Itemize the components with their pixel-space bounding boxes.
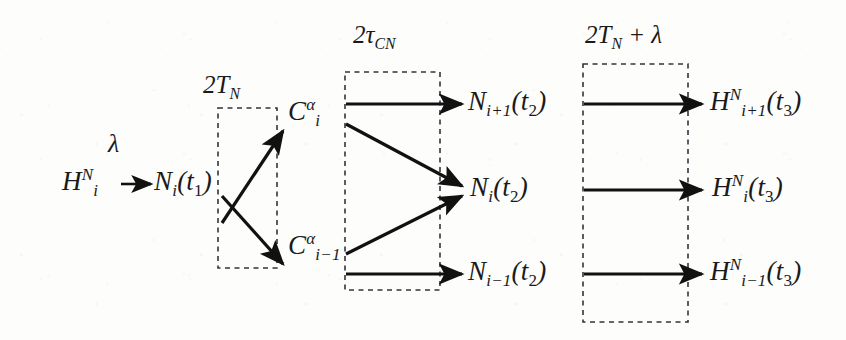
dashed-box-stage-2 <box>345 72 440 290</box>
node-n-t1-tail-sub: 1 <box>194 181 203 200</box>
node-source-h: HNi <box>62 168 98 195</box>
stage-label-1-sub: N <box>229 85 240 102</box>
reaction-pathway-diagram: 2TN 2τCN 2TN + λ λ HNi Ni(t1) Cαi Cαi−1 … <box>0 0 846 340</box>
node-h-lower-t3-base: H <box>710 256 730 286</box>
node-h-upper-t3-sup: N <box>730 85 742 104</box>
node-n-mid-t2-base: N <box>470 172 488 202</box>
node-n-mid-t2-tail: (t <box>493 172 510 202</box>
node-n-upper-t2-base: N <box>468 86 486 116</box>
stage-label-3-suffix: + λ <box>622 21 662 48</box>
node-n-t1: Ni(t1) <box>154 168 212 195</box>
node-source-h-base: H <box>62 166 82 196</box>
node-h-upper-t3-sub: i+1 <box>741 101 766 120</box>
node-h-upper-t3-tail-end: ) <box>792 86 801 116</box>
arrow-c-lower-to-n-mid <box>346 196 462 254</box>
node-c-lower-sub: i−1 <box>315 245 340 264</box>
node-h-lower-t3-sub: i−1 <box>741 271 766 290</box>
node-h-mid-t3-sup: N <box>732 171 744 190</box>
node-h-lower-t3-tail-sub: 3 <box>783 271 792 290</box>
node-n-lower-t2-sub: i−1 <box>486 271 511 290</box>
node-n-lower-t2-tail: (t <box>512 256 529 286</box>
node-n-lower-t2: Ni−1(t2) <box>468 258 546 285</box>
node-n-mid-t2: Ni(t2) <box>470 174 528 201</box>
stage-label-1: 2TN <box>203 72 240 97</box>
node-h-mid-t3-base: H <box>712 172 732 202</box>
stage-label-2-sub: CN <box>374 35 395 52</box>
node-n-upper-t2: Ni+1(t2) <box>468 88 546 115</box>
stage-label-3-sub: N <box>611 35 622 52</box>
stage-label-2: 2τCN <box>353 22 395 47</box>
dashed-box-stage-3 <box>583 64 688 322</box>
node-h-mid-t3: HNi(t3) <box>712 174 783 201</box>
node-c-lower-sup: α <box>306 229 315 248</box>
arrow-n-t1-to-c-upper <box>222 131 283 223</box>
node-h-upper-t3-tail-sub: 3 <box>783 101 792 120</box>
node-h-mid-t3-tail: (t <box>748 172 765 202</box>
stage-label-3-text: 2T <box>585 21 611 48</box>
node-h-upper-t3-base: H <box>710 86 730 116</box>
paper-texture-overlay <box>0 0 846 340</box>
rate-label-lambda: λ <box>108 131 119 157</box>
node-n-upper-t2-tail-sub: 2 <box>528 101 537 120</box>
stage-label-3: 2TN + λ <box>585 22 662 47</box>
node-c-upper: Cαi <box>288 98 320 125</box>
node-c-lower-base: C <box>288 230 306 260</box>
dashed-box-stage-1 <box>218 108 277 268</box>
node-h-lower-t3-tail-end: ) <box>792 256 801 286</box>
node-c-lower: Cαi−1 <box>288 232 341 259</box>
node-n-upper-t2-tail-end: ) <box>537 86 546 116</box>
diagram-vector-layer <box>0 0 846 340</box>
node-n-mid-t2-tail-sub: 2 <box>510 187 519 206</box>
node-n-lower-t2-tail-sub: 2 <box>528 271 537 290</box>
node-source-h-sub: i <box>93 181 98 200</box>
stage-label-2-text: 2τ <box>353 21 374 48</box>
node-n-t1-tail-end: ) <box>203 166 212 196</box>
node-c-upper-sup: α <box>306 95 315 114</box>
node-n-upper-t2-tail: (t <box>512 86 529 116</box>
node-h-mid-t3-tail-end: ) <box>774 172 783 202</box>
node-h-lower-t3: HNi−1(t3) <box>710 258 801 285</box>
node-h-upper-t3: HNi+1(t3) <box>710 88 801 115</box>
node-n-upper-t2-sub: i+1 <box>486 101 511 120</box>
stage-label-1-text: 2T <box>203 71 229 98</box>
node-c-upper-base: C <box>288 96 306 126</box>
node-h-mid-t3-tail-sub: 3 <box>765 187 774 206</box>
node-h-upper-t3-tail: (t <box>767 86 784 116</box>
node-h-lower-t3-sup: N <box>730 255 742 274</box>
arrow-c-upper-to-n-mid <box>346 124 462 186</box>
node-h-lower-t3-tail: (t <box>767 256 784 286</box>
node-n-t1-tail: (t <box>177 166 194 196</box>
node-c-upper-sub: i <box>315 111 320 130</box>
node-n-lower-t2-tail-end: ) <box>537 256 546 286</box>
node-n-lower-t2-base: N <box>468 256 486 286</box>
node-n-t1-base: N <box>154 166 172 196</box>
arrow-n-t1-to-c-lower <box>222 196 283 264</box>
node-n-mid-t2-tail-end: ) <box>519 172 528 202</box>
node-source-h-sup: N <box>82 165 94 184</box>
